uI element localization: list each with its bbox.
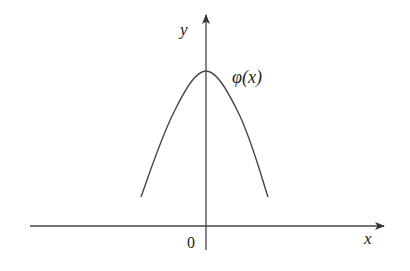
function-graph: y φ(x) 0 x: [0, 0, 410, 271]
x-axis-label: x: [363, 229, 372, 248]
y-axis-label: y: [178, 20, 188, 39]
curve-label: φ(x): [232, 67, 262, 88]
phi-curve: [141, 71, 268, 197]
origin-label: 0: [187, 234, 195, 251]
